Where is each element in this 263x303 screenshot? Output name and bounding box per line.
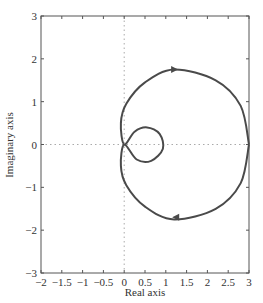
nyquist-plot: −2−1.5−1−0.500.511.522.53 −3−2−10123 Rea… — [0, 0, 263, 303]
y-axis-title: Imaginary axis — [3, 112, 15, 178]
y-tick-label: 0 — [32, 139, 38, 151]
y-tick-label: 3 — [32, 10, 38, 22]
reference-lines — [41, 16, 249, 273]
y-tick-label: −2 — [25, 224, 37, 236]
x-tick-label: 3 — [246, 276, 252, 288]
direction-arrows — [171, 66, 179, 221]
x-tick-label: 2 — [205, 276, 211, 288]
x-axis-title: Real axis — [125, 286, 166, 298]
y-tick-labels: −3−2−10123 — [25, 10, 37, 279]
x-tick-label: −0.5 — [93, 276, 113, 288]
y-tick-label: 1 — [32, 96, 38, 108]
x-tick-label: 1.5 — [180, 276, 194, 288]
x-tick-label: −1.5 — [52, 276, 72, 288]
y-tick-label: −1 — [25, 181, 37, 193]
y-tick-label: 2 — [32, 53, 38, 65]
x-tick-label: −1 — [77, 276, 89, 288]
y-tick-label: −3 — [25, 267, 37, 279]
x-tick-label: 2.5 — [221, 276, 235, 288]
arrow-right-icon — [171, 66, 178, 73]
